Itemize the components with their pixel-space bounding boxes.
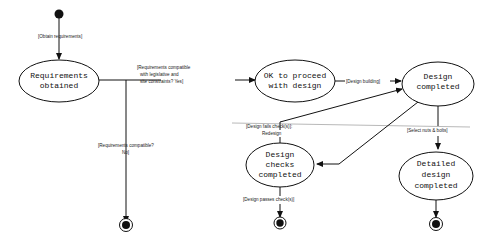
transition-label-yes-3: site constraints? Yes] xyxy=(140,79,183,84)
state-label: with design xyxy=(269,81,322,90)
transition-label-passes: [Design passes check(s)] xyxy=(243,197,294,202)
state-label: completed xyxy=(414,181,457,190)
state-label: Requirements xyxy=(30,71,88,80)
state-design-checks-completed: Design checks completed xyxy=(246,143,314,187)
final-node-2 xyxy=(274,217,286,229)
state-label: Design xyxy=(424,72,453,81)
state-requirements-obtained: Requirements obtained xyxy=(19,60,99,102)
state-ok-to-proceed: OK to proceed with design xyxy=(255,60,335,102)
state-label: design xyxy=(422,170,451,179)
transition-label-fails-1: [Design fails check(s)]: xyxy=(246,124,292,129)
initial-node xyxy=(55,10,64,19)
transition-label-obtain: [Obtain requirements] xyxy=(38,34,82,39)
state-label: completed xyxy=(416,82,459,91)
transition-label-nuts-bolts: [Select nuts & bolts] xyxy=(407,128,448,133)
state-diagram: [Obtain requirements] Requirements obtai… xyxy=(0,0,490,245)
final-node-3 xyxy=(430,218,443,231)
transition-label-design-building: [Design building] xyxy=(346,79,380,84)
state-label: obtained xyxy=(40,81,79,90)
state-label: checks xyxy=(266,160,295,169)
state-label: completed xyxy=(258,170,301,179)
state-design-completed: Design completed xyxy=(402,62,474,106)
state-label: Design xyxy=(266,150,295,159)
transition-label-no-2: No] xyxy=(122,150,129,155)
state-detailed-design-completed: Detailed design completed xyxy=(399,152,473,200)
state-label: Detailed xyxy=(417,159,456,168)
final-node-1 xyxy=(120,219,133,232)
transition-label-fails-2: Redesign xyxy=(262,131,282,136)
state-label: OK to proceed xyxy=(264,71,327,80)
transition-label-no-1: [Requirements compatible? xyxy=(98,143,154,148)
transition-label-yes-1: [Requirements compatible xyxy=(137,65,191,70)
transition-label-yes-2: with legislative and xyxy=(140,72,179,77)
